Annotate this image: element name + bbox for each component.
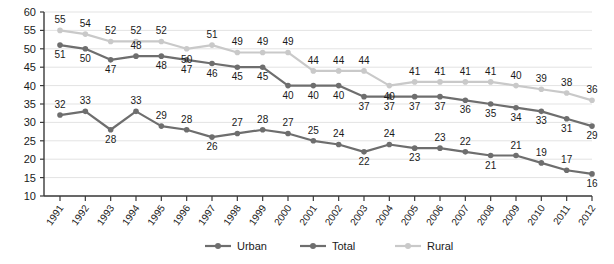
data-point — [336, 83, 342, 89]
data-point — [311, 138, 317, 144]
x-tick-label: 2002 — [323, 202, 345, 227]
data-label: 49 — [282, 36, 294, 47]
data-point — [361, 149, 367, 155]
data-label: 37 — [358, 101, 370, 112]
data-label: 45 — [257, 71, 269, 82]
data-point — [564, 116, 570, 122]
data-point — [133, 53, 139, 59]
data-point — [564, 90, 570, 96]
data-label: 41 — [485, 66, 497, 77]
data-label: 35 — [485, 108, 497, 119]
data-label: 28 — [257, 114, 269, 125]
x-tick-label: 2000 — [272, 202, 294, 227]
data-point — [285, 50, 291, 56]
data-point — [361, 68, 367, 74]
data-label: 49 — [232, 36, 244, 47]
data-point — [387, 142, 393, 148]
data-label: 26 — [206, 141, 218, 152]
data-point — [260, 50, 266, 56]
x-tick-label: 2008 — [475, 202, 497, 227]
x-tick-label: 2011 — [551, 202, 573, 226]
data-label: 27 — [282, 117, 294, 128]
data-label: 41 — [409, 66, 421, 77]
x-tick-label: 2009 — [500, 202, 522, 227]
data-point — [513, 83, 519, 89]
data-point — [589, 123, 595, 129]
legend-marker — [405, 243, 411, 249]
data-point — [285, 83, 291, 89]
data-label: 48 — [156, 60, 168, 71]
data-label: 25 — [308, 125, 320, 136]
data-label: 29 — [156, 110, 168, 121]
data-point — [108, 57, 114, 63]
data-point — [336, 142, 342, 148]
x-tick-label: 1997 — [196, 202, 218, 227]
data-point — [539, 86, 545, 92]
data-label: 28 — [181, 114, 193, 125]
data-label: 16 — [586, 178, 598, 189]
series-rural — [57, 28, 595, 104]
data-point — [463, 149, 469, 155]
legend-marker — [310, 243, 316, 249]
data-point — [108, 39, 114, 45]
data-point — [488, 79, 494, 85]
data-label: 21 — [485, 160, 497, 171]
x-tick-label: 2006 — [424, 202, 446, 227]
gridlines — [44, 12, 592, 196]
line-chart: 1015202530354045505560 19911992199319941… — [0, 0, 614, 264]
data-point — [539, 160, 545, 166]
legend-label: Rural — [427, 240, 453, 252]
data-label: 40 — [308, 90, 320, 101]
data-label: 33 — [536, 115, 548, 126]
data-point — [412, 94, 418, 100]
data-point — [589, 98, 595, 104]
chart-legend: UrbanTotalRural — [205, 240, 453, 252]
data-label: 22 — [460, 136, 472, 147]
data-point — [83, 109, 89, 115]
data-point — [488, 101, 494, 107]
data-label: 39 — [536, 73, 548, 84]
data-label: 45 — [232, 71, 244, 82]
y-tick-label: 30 — [24, 116, 36, 128]
data-label: 23 — [409, 152, 421, 163]
y-tick-label: 50 — [24, 43, 36, 55]
x-tick-label: 2007 — [449, 202, 471, 227]
data-point — [463, 98, 469, 104]
data-point — [209, 134, 215, 140]
data-point — [285, 131, 291, 137]
y-tick-label: 35 — [24, 98, 36, 110]
data-point — [311, 68, 317, 74]
data-point — [437, 145, 443, 151]
data-point — [235, 131, 241, 137]
data-point — [159, 39, 165, 45]
y-tick-label: 40 — [24, 80, 36, 92]
x-tick-label: 2005 — [399, 202, 421, 227]
data-point — [589, 171, 595, 177]
data-point — [412, 79, 418, 85]
y-tick-label: 25 — [24, 135, 36, 147]
data-point — [209, 61, 215, 67]
y-tick-label: 20 — [24, 153, 36, 165]
data-label: 41 — [460, 66, 472, 77]
data-point — [412, 145, 418, 151]
data-label: 36 — [460, 104, 472, 115]
y-tick-label: 60 — [24, 6, 36, 18]
legend-label: Urban — [237, 240, 267, 252]
data-point — [564, 167, 570, 173]
data-point — [83, 46, 89, 52]
data-point — [387, 83, 393, 89]
data-point — [463, 79, 469, 85]
data-point — [260, 64, 266, 70]
data-label: 47 — [105, 64, 117, 75]
data-label: 47 — [181, 64, 193, 75]
data-point — [108, 127, 114, 133]
data-point — [57, 42, 63, 48]
data-point — [437, 94, 443, 100]
data-label: 44 — [308, 55, 320, 66]
data-label: 52 — [156, 25, 168, 36]
data-label: 55 — [54, 14, 66, 25]
data-point — [57, 28, 63, 34]
data-point — [311, 83, 317, 89]
y-tick-label: 10 — [24, 190, 36, 202]
y-tick-label: 15 — [24, 172, 36, 184]
